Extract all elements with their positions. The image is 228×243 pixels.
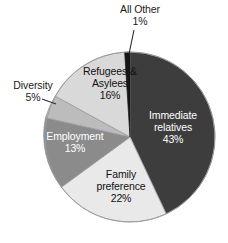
pie-label-family-preference-name-line2: preference: [84, 181, 158, 193]
pie-label-family-preference: Family preference 22%: [84, 169, 158, 204]
pie-label-family-preference-name-line1: Family: [84, 169, 158, 181]
pie-label-immediate-relatives-name-line1: Immediate: [137, 110, 209, 122]
pie-label-all-other-value: 1%: [95, 16, 185, 28]
pie-label-diversity: Diversity 5%: [0, 80, 66, 104]
pie-label-immediate-relatives-value: 43%: [137, 134, 209, 146]
pie-label-employment-name: Employment: [33, 131, 117, 143]
pie-label-immediate-relatives: Immediate relatives 43%: [137, 110, 209, 145]
pie-label-refugees-asylees-value: 16%: [72, 90, 148, 102]
pie-label-employment-value: 13%: [33, 143, 117, 155]
pie-label-diversity-value: 5%: [0, 92, 66, 104]
pie-label-immediate-relatives-name-line2: relatives: [137, 122, 209, 134]
leader-line-all-other: [129, 30, 134, 54]
pie-label-refugees-asylees-name-line2: Asylees: [72, 78, 148, 90]
pie-label-all-other: All Other 1%: [95, 4, 185, 28]
pie-label-all-other-name: All Other: [95, 4, 185, 16]
pie-label-diversity-name: Diversity: [0, 80, 66, 92]
pie-label-employment: Employment 13%: [33, 131, 117, 155]
pie-label-refugees-asylees: Refugees & Asylees 16%: [72, 66, 148, 101]
pie-label-refugees-asylees-name-line1: Refugees &: [72, 66, 148, 78]
pie-chart: All Other 1% Diversity 5% Immediate rela…: [0, 0, 228, 243]
pie-label-family-preference-value: 22%: [84, 193, 158, 205]
